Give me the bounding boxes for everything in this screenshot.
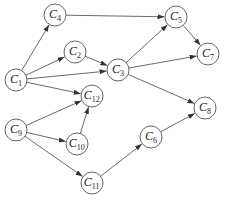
edge-c9-to-c10 [27, 132, 66, 141]
node-subscript: 1 [18, 79, 22, 88]
edge-c3-to-c5 [126, 25, 167, 63]
nodes-layer: C1C2C3C4C5C6C7C8C9C10C11C12 [5, 4, 219, 194]
edge-c10-to-c12 [80, 107, 88, 134]
edge-c3-to-c7 [129, 56, 197, 68]
edge-c3-to-c8 [128, 74, 194, 103]
edge-c6-to-c8 [161, 113, 195, 131]
node-c4: C4 [44, 4, 66, 26]
node-subscript: 12 [92, 95, 100, 104]
node-subscript: 6 [153, 136, 157, 145]
edges-layer [22, 15, 201, 176]
node-c11: C11 [81, 172, 103, 194]
node-c12: C12 [81, 85, 103, 107]
edge-c4-to-c5 [66, 15, 165, 17]
node-c2: C2 [64, 41, 86, 63]
node-subscript: 9 [18, 129, 22, 138]
node-c6: C6 [140, 126, 162, 148]
node-subscript: 3 [120, 69, 124, 78]
node-subscript: 10 [77, 143, 85, 152]
node-c5: C5 [165, 6, 187, 28]
node-c3: C3 [107, 59, 129, 81]
edge-c5-to-c7 [183, 25, 200, 45]
edge-c1-to-c2 [26, 57, 65, 75]
node-subscript: 11 [92, 182, 100, 191]
edge-c1-to-c12 [27, 82, 81, 93]
node-subscript: 8 [207, 107, 211, 116]
edge-c9-to-c12 [26, 101, 81, 126]
node-c9: C9 [5, 119, 27, 141]
node-subscript: 4 [57, 14, 61, 23]
node-c10: C10 [66, 133, 88, 155]
node-c7: C7 [197, 43, 219, 65]
edge-c11-to-c6 [101, 144, 142, 176]
edge-c1-to-c3 [27, 71, 107, 79]
edge-c1-to-c4 [22, 25, 49, 71]
dependency-graph: C1C2C3C4C5C6C7C8C9C10C11C12 [0, 0, 225, 202]
node-c1: C1 [5, 69, 27, 91]
node-subscript: 2 [77, 51, 81, 60]
node-subscript: 7 [210, 53, 214, 62]
node-c8: C8 [194, 97, 216, 119]
edge-c2-to-c3 [85, 56, 107, 65]
node-subscript: 5 [178, 16, 182, 25]
